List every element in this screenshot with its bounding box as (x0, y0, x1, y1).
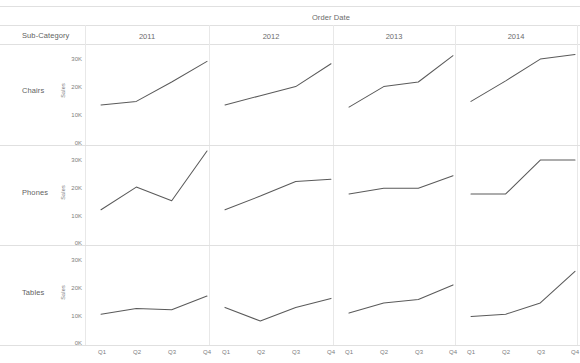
panel-tables-2012 (210, 246, 333, 345)
column-field-title: Order Date (85, 11, 577, 24)
panel-svg-chairs-2012 (210, 45, 333, 145)
y-tick-chairs-30k: 30K (58, 56, 82, 63)
line-chairs-2012 (225, 64, 331, 105)
row-header-chairs: Chairs (22, 86, 44, 95)
y-tick-phones-0k: 0K (58, 240, 82, 247)
y-tick-tables-20k: 20K (58, 285, 82, 292)
x-tick-2012-q2: Q2 (248, 348, 274, 356)
panel-svg-phones-2012 (210, 146, 333, 245)
y-tick-tables-0k: 0K (58, 340, 82, 347)
line-phones-2012 (225, 179, 331, 210)
column-header-2014: 2014 (455, 31, 577, 43)
y-tick-phones-10k: 10K (58, 213, 82, 220)
y-tick-phones-20k: 20K (58, 185, 82, 192)
x-tick-2011-q3: Q3 (159, 348, 185, 356)
row-header-tables: Tables (22, 288, 44, 297)
y-tick-chairs-0k: 0K (58, 140, 82, 147)
panel-svg-tables-2011 (86, 246, 209, 345)
y-tick-phones-30k: 30K (58, 157, 82, 164)
x-tick-2014-q3: Q3 (528, 348, 554, 356)
column-header-2013: 2013 (333, 31, 455, 43)
row-header-phones: Phones (22, 188, 48, 197)
panel-chairs-2014 (456, 45, 577, 145)
x-tick-2013-q2: Q2 (371, 348, 397, 356)
panel-chairs-2011 (86, 45, 209, 145)
panel-tables-2011 (86, 246, 209, 345)
header-rule (0, 25, 580, 26)
line-chairs-2013 (349, 56, 453, 107)
y-tick-chairs-20k: 20K (58, 84, 82, 91)
x-tick-2012-q3: Q3 (283, 348, 309, 356)
panel-chairs-2012 (210, 45, 333, 145)
panel-phones-2011 (86, 146, 209, 245)
line-tables-2012 (225, 298, 331, 321)
panel-tables-2014 (456, 246, 577, 345)
panel-svg-tables-2012 (210, 246, 333, 345)
line-chairs-2014 (471, 55, 575, 102)
x-tick-2011-q2: Q2 (124, 348, 150, 356)
line-tables-2013 (349, 285, 453, 313)
column-header-2012: 2012 (209, 31, 333, 43)
panel-svg-tables-2014 (456, 246, 577, 345)
top-rule (0, 6, 580, 7)
x-tick-2011-q1: Q1 (89, 348, 115, 356)
panel-chairs-2013 (334, 45, 455, 145)
line-phones-2013 (349, 176, 453, 194)
panel-phones-2014 (456, 146, 577, 245)
line-phones-2014 (471, 160, 575, 194)
panel-phones-2012 (210, 146, 333, 245)
panel-svg-phones-2014 (456, 146, 577, 245)
x-tick-2014-q4: Q4 (562, 348, 580, 356)
x-tick-2013-q3: Q3 (406, 348, 432, 356)
line-chairs-2011 (101, 61, 207, 105)
x-tick-2014-q2: Q2 (493, 348, 519, 356)
line-phones-2011 (101, 151, 207, 210)
panel-svg-chairs-2013 (334, 45, 455, 145)
chart-root: Order Date Sub-Category 2011 2012 2013 2… (0, 0, 580, 363)
x-tick-2014-q1: Q1 (458, 348, 484, 356)
y-tick-tables-10k: 10K (58, 313, 82, 320)
line-tables-2014 (471, 271, 575, 316)
line-tables-2011 (101, 296, 207, 314)
panel-divider-4 (577, 25, 578, 345)
row-divider-3 (0, 345, 580, 346)
panel-phones-2013 (334, 146, 455, 245)
x-tick-2012-q1: Q1 (213, 348, 239, 356)
panel-svg-chairs-2011 (86, 45, 209, 145)
row-field-title: Sub-Category (22, 31, 69, 40)
y-tick-chairs-10k: 10K (58, 112, 82, 119)
x-tick-2013-q1: Q1 (336, 348, 362, 356)
y-tick-tables-30k: 30K (58, 257, 82, 264)
panel-svg-chairs-2014 (456, 45, 577, 145)
panel-svg-tables-2013 (334, 246, 455, 345)
panel-tables-2013 (334, 246, 455, 345)
panel-svg-phones-2013 (334, 146, 455, 245)
panel-svg-phones-2011 (86, 146, 209, 245)
column-header-2011: 2011 (85, 31, 209, 43)
